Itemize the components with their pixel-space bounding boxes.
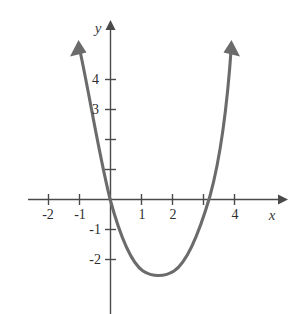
x-tick-label-2: 2	[170, 207, 177, 222]
graph-figure: -2 -1 1 2 4 4 3 -1 -2 y x	[0, 0, 291, 314]
coordinate-plot: -2 -1 1 2 4 4 3 -1 -2 y x	[0, 0, 291, 314]
x-tick-label-neg1: -1	[74, 207, 86, 222]
x-axis	[28, 195, 288, 205]
y-axis	[106, 20, 116, 314]
x-tick-label-1: 1	[139, 207, 146, 222]
x-axis-arrowhead	[278, 195, 288, 205]
parabola-left-arrowhead	[70, 40, 87, 57]
y-tick-label-3: 3	[92, 102, 99, 117]
y-tick-label-4: 4	[92, 72, 99, 87]
y-axis-arrowhead	[106, 20, 116, 30]
y-tick-label-neg1: -1	[89, 222, 101, 237]
parabola-path	[79, 44, 232, 276]
x-axis-label: x	[268, 207, 276, 223]
parabola-right-arrowhead	[224, 40, 241, 57]
y-tick-label-neg2: -2	[89, 252, 101, 267]
x-tick-label-neg2: -2	[42, 207, 54, 222]
x-tick-label-4: 4	[232, 207, 239, 222]
y-axis-label: y	[93, 20, 102, 36]
